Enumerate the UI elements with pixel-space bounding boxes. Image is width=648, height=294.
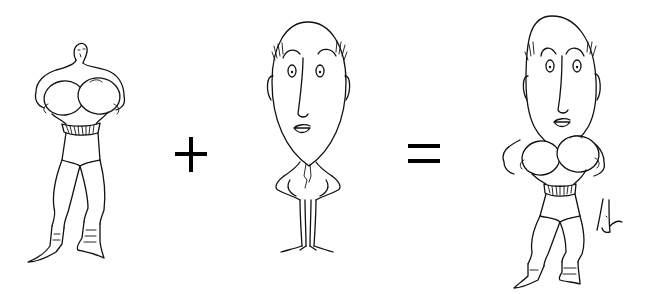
plus-sign	[175, 137, 207, 172]
egghead-head	[272, 22, 346, 166]
combined-figure	[503, 16, 604, 288]
combined-left-glove	[519, 138, 562, 178]
equals-sign	[408, 146, 440, 161]
combined-trunks	[540, 194, 580, 222]
combined-left-boot	[514, 264, 544, 288]
combined-right-glove	[555, 133, 602, 174]
illustration-canvas	[0, 0, 648, 294]
artist-signature	[597, 199, 622, 232]
egghead-figure	[267, 22, 349, 252]
boxer-right-boot	[77, 222, 104, 258]
boxer-right-glove	[76, 75, 123, 116]
boxer-left-boot	[28, 226, 64, 262]
boxer-figure	[28, 43, 125, 262]
combined-right-boot	[559, 262, 580, 284]
boxer-trunks	[62, 133, 100, 166]
